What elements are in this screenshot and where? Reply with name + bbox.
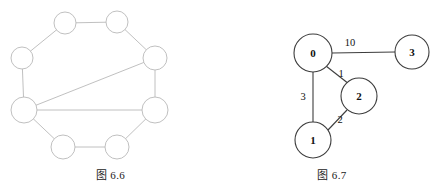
weighted-graph-canvas: 0 3 2 1 10 1 3 2 — [221, 0, 443, 165]
node-n1[interactable] — [106, 11, 128, 33]
node-label-v3: 3 — [409, 46, 415, 58]
node-n5[interactable] — [51, 135, 75, 159]
figure-caption-6-6: 图 6.6 — [0, 166, 221, 182]
node-n3[interactable] — [142, 97, 168, 123]
edge-weight-v0-v1: 3 — [300, 91, 305, 102]
node-n6[interactable] — [11, 97, 37, 123]
edge-weight-v0-v2: 1 — [338, 68, 343, 79]
edge-weight-v1-v2: 2 — [337, 114, 342, 125]
octagon-graph-canvas — [0, 0, 221, 165]
figure-caption-6-7: 图 6.7 — [221, 166, 443, 182]
node-label-v1: 1 — [310, 134, 316, 146]
edge-v0-v3 — [332, 52, 395, 53]
figure-6-7: 0 3 2 1 10 1 3 2 图 6.7 — [221, 0, 443, 193]
node-label-v2: 2 — [356, 90, 362, 102]
node-n4[interactable] — [105, 135, 129, 159]
node-label-v0: 0 — [310, 47, 316, 59]
octagon-graph-nodes — [11, 11, 168, 159]
node-n7[interactable] — [11, 47, 33, 69]
node-n2[interactable] — [143, 46, 167, 70]
figure-6-6: 图 6.6 — [0, 0, 221, 193]
node-n0[interactable] — [54, 12, 76, 34]
octagon-graph-edges — [22, 22, 155, 147]
edge-weight-v0-v3: 10 — [345, 37, 356, 48]
edge-n6-n2-diagonal — [24, 58, 155, 110]
